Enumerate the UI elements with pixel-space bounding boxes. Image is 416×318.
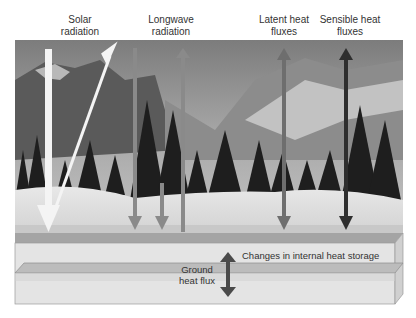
ground-flux-line2: heat flux [176, 275, 218, 286]
ground-heat-flux-label: Ground heat flux [176, 264, 218, 286]
ground-flux-line1: Ground [176, 264, 218, 275]
internal-heat-storage-label: Changes in internal heat storage [242, 250, 379, 261]
